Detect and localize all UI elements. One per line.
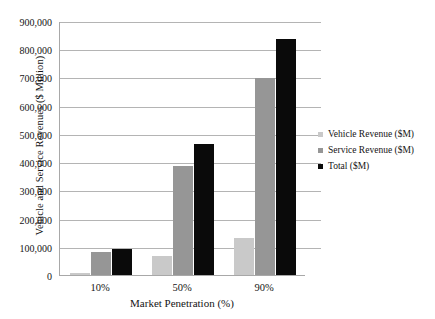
y-tick-label: 400,000 xyxy=(20,158,53,169)
x-tick-label: 90% xyxy=(254,282,273,293)
legend-item: Service Revenue ($M) xyxy=(318,142,414,158)
x-axis-title: Market Penetration (%) xyxy=(59,297,305,309)
y-tick-label: 700,000 xyxy=(20,73,53,84)
x-tick-label: 10% xyxy=(90,282,109,293)
y-tick-label: 200,000 xyxy=(20,214,53,225)
y-tick-label: 100,000 xyxy=(20,242,53,253)
legend-swatch-icon xyxy=(318,148,323,153)
bar-chart: Vehicle and Service Revenues ($ Million)… xyxy=(0,0,435,319)
y-axis-tick-labels: 0100,000200,000300,000400,000500,000600,… xyxy=(0,0,57,319)
bar xyxy=(194,144,214,275)
x-tick-label: 50% xyxy=(172,282,191,293)
axis-tick-mark xyxy=(306,50,321,51)
bar xyxy=(173,166,193,275)
bar xyxy=(112,249,132,275)
y-tick-label: 300,000 xyxy=(20,186,53,197)
bar-group-10pct xyxy=(70,21,132,275)
axis-tick-mark xyxy=(306,220,321,221)
axis-tick-mark xyxy=(306,191,321,192)
axis-tick-mark xyxy=(306,107,321,108)
bar xyxy=(152,256,172,275)
bar xyxy=(91,252,111,275)
y-tick-label: 600,000 xyxy=(20,101,53,112)
axis-tick-mark xyxy=(306,78,321,79)
bar-group-50pct xyxy=(152,21,214,275)
legend-label: Service Revenue ($M) xyxy=(328,145,414,155)
y-tick-label: 900,000 xyxy=(20,17,53,28)
bar xyxy=(255,78,275,275)
bar xyxy=(70,273,90,275)
legend-swatch-icon xyxy=(318,164,323,169)
legend-swatch-icon xyxy=(318,132,323,137)
plot-area xyxy=(59,22,305,276)
axis-tick-mark xyxy=(306,248,321,249)
bar-group-90pct xyxy=(234,21,296,275)
legend-label: Total ($M) xyxy=(328,161,369,171)
bar xyxy=(276,39,296,275)
bar xyxy=(234,238,254,275)
y-tick-label: 800,000 xyxy=(20,45,53,56)
y-tick-label: 500,000 xyxy=(20,129,53,140)
legend-item: Vehicle Revenue ($M) xyxy=(318,126,414,142)
legend-item: Total ($M) xyxy=(318,158,414,174)
chart-legend: Vehicle Revenue ($M)Service Revenue ($M)… xyxy=(318,126,414,174)
legend-label: Vehicle Revenue ($M) xyxy=(328,129,414,139)
y-tick-label: 0 xyxy=(47,271,52,282)
axis-tick-mark xyxy=(306,22,321,23)
